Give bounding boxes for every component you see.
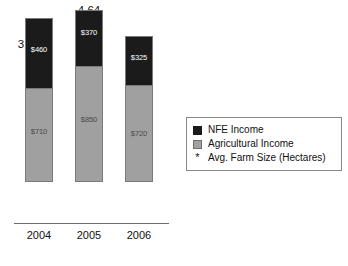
bar-segment-nfe-2006[interactable]: $325: [126, 37, 152, 85]
dark-square-swatch-icon: [193, 126, 202, 135]
legend-label-agricultural-income: Agricultural Income: [208, 138, 294, 150]
bar-segment-nfe-2004[interactable]: $460: [26, 19, 52, 88]
gray-square-swatch-icon: [193, 140, 202, 149]
bar-segment-nfe-2005[interactable]: $370: [76, 11, 102, 66]
asterisk-marker-icon: *: [193, 154, 202, 163]
legend-item-agricultural-income[interactable]: Agricultural Income: [193, 137, 335, 151]
bar-segment-label-nfe-2004: $460: [31, 46, 47, 54]
bar-segment-agricultural-2004[interactable]: $710: [26, 88, 52, 181]
x-axis-tick-label-2006: 2006: [109, 230, 169, 241]
bar-stack-2005[interactable]: $370 $850: [75, 10, 103, 182]
bar-stack-2006[interactable]: $325 $720: [125, 36, 153, 182]
legend-label-avg-farm-size: Avg. Farm Size (Hectares): [208, 152, 326, 164]
plot-area: 3.78 * $460 $710 4.64 * $370: [0, 0, 185, 226]
x-axis-line: [14, 223, 169, 224]
legend-item-nfe-income[interactable]: NFE Income: [193, 123, 335, 137]
bar-segment-label-agricultural-2005: $850: [81, 116, 97, 124]
bar-segment-agricultural-2006[interactable]: $720: [126, 85, 152, 181]
legend-label-nfe-income: NFE Income: [208, 124, 264, 136]
bar-segment-agricultural-2005[interactable]: $850: [76, 66, 102, 181]
stacked-bar-chart: 3.78 * $460 $710 4.64 * $370: [0, 0, 348, 266]
bar-segment-label-agricultural-2004: $710: [31, 128, 47, 136]
chart-legend: NFE Income Agricultural Income * Avg. Fa…: [186, 117, 342, 171]
bar-stack-2004[interactable]: $460 $710: [25, 18, 53, 182]
bar-segment-label-nfe-2005: $370: [81, 29, 97, 37]
legend-item-avg-farm-size[interactable]: * Avg. Farm Size (Hectares): [193, 151, 335, 165]
bar-segment-label-nfe-2006: $325: [131, 54, 147, 62]
bar-segment-label-agricultural-2006: $720: [131, 130, 147, 138]
